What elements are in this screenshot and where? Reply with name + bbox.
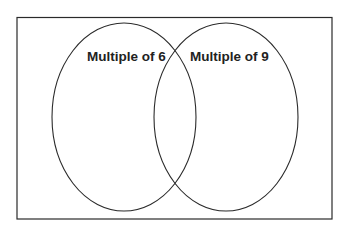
- universal-set-rectangle: [17, 18, 332, 220]
- set-label-multiple-of-6: Multiple of 6: [87, 49, 166, 64]
- set-label-multiple-of-9: Multiple of 9: [190, 49, 269, 64]
- venn-diagram: Multiple of 6 Multiple of 9: [0, 0, 350, 229]
